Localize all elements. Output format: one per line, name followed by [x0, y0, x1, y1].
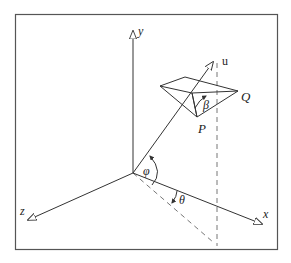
y-axis-label: y: [137, 24, 144, 38]
point-Q-label: Q: [241, 89, 251, 104]
rotation-plane-polygon: [160, 77, 238, 117]
point-P-label: P: [197, 121, 206, 136]
phi-label: φ: [143, 164, 150, 178]
theta-arc: [172, 191, 177, 203]
segment-to-Q: [192, 91, 238, 93]
theta-label: θ: [179, 193, 185, 207]
u-vector-label: u: [222, 54, 228, 68]
plane-edge-left: [160, 86, 197, 117]
z-axis: [28, 173, 133, 220]
beta-label: β: [202, 98, 209, 112]
projection-dashed-ground: [133, 173, 213, 242]
x-axis: [133, 173, 262, 224]
z-axis-label: z: [19, 204, 25, 218]
diagram-canvas: y x z u Q P β φ θ: [0, 0, 291, 263]
x-axis-label: x: [262, 207, 269, 221]
u-vector: [133, 62, 213, 173]
